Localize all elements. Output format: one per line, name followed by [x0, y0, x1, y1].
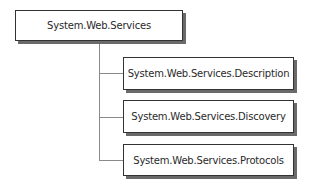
child-namespace-label: System.Web.Services.Description — [128, 68, 290, 79]
child-namespace-node-description: System.Web.Services.Description — [123, 57, 294, 90]
branch-connector-description — [99, 73, 123, 74]
branch-connector-discovery — [99, 117, 123, 118]
root-namespace-node: System.Web.Services — [15, 10, 183, 41]
trunk-connector — [99, 41, 100, 161]
root-namespace-label: System.Web.Services — [47, 20, 151, 31]
child-namespace-node-discovery: System.Web.Services.Discovery — [123, 100, 294, 133]
child-namespace-node-protocols: System.Web.Services.Protocols — [123, 144, 294, 176]
child-namespace-label: System.Web.Services.Discovery — [131, 111, 285, 122]
child-namespace-label: System.Web.Services.Protocols — [133, 155, 284, 166]
branch-connector-protocols — [99, 160, 123, 161]
